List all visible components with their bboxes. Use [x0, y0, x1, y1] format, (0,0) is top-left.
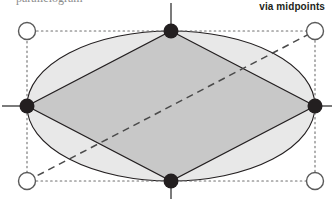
top-left-corner-point — [19, 23, 36, 40]
bottom-midpoint-point — [164, 174, 179, 189]
bottom-left-corner-point — [19, 173, 36, 190]
bottom-right-corner-point — [307, 173, 324, 190]
figure-container: parallelogram via midpoints — [0, 0, 333, 200]
left-midpoint-point — [20, 99, 35, 114]
top-midpoint-point — [164, 24, 179, 39]
figure-caption: via midpoints — [259, 1, 325, 12]
clipped-top-text: parallelogram — [16, 0, 83, 6]
top-right-corner-point — [307, 23, 324, 40]
geometry-diagram — [0, 0, 333, 200]
right-midpoint-point — [308, 99, 323, 114]
